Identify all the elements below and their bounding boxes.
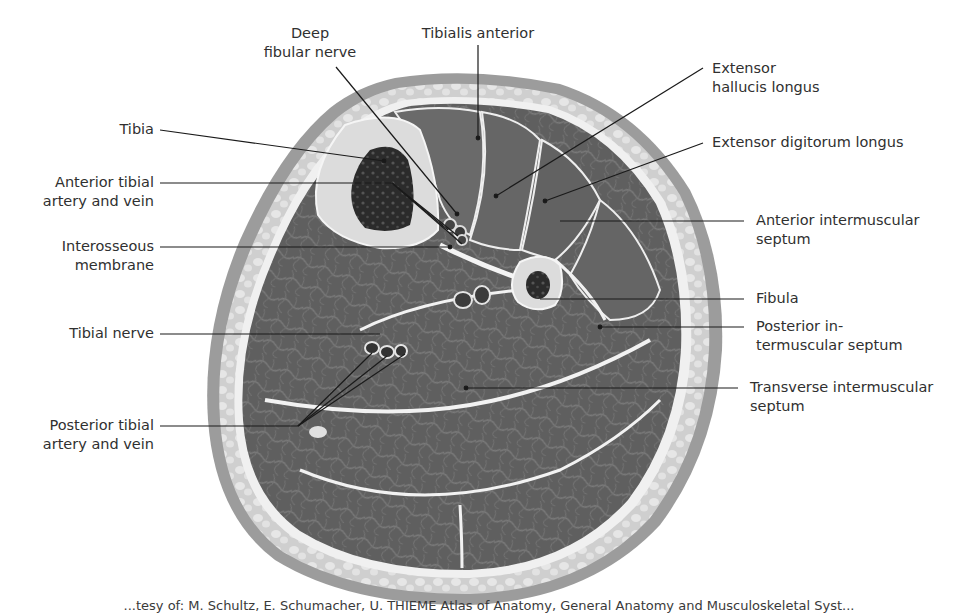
cross-section-illustration: [0, 0, 978, 615]
label-tibia: Tibia: [60, 120, 154, 139]
label-extensor-digitorum-longus: Extensor digitorum longus: [712, 133, 903, 152]
label-deep-fibular-nerve: Deep fibular nerve: [250, 24, 370, 62]
fibula-marrow: [526, 271, 550, 299]
posterior-tibial-vessel-3: [395, 345, 407, 357]
label-posterior-intermuscular-septum: Posterior in- termuscular septum: [756, 317, 903, 355]
label-fibula: Fibula: [756, 289, 799, 308]
label-anterior-tibial-artery-vein: Anterior tibial artery and vein: [14, 173, 154, 211]
label-anterior-intermuscular-septum: Anterior intermuscular septum: [756, 211, 920, 249]
small-saphenous-structure: [309, 426, 327, 438]
figure-caption: ...tesy of: M. Schultz, E. Schumacher, U…: [0, 598, 978, 615]
label-extensor-hallucis-longus: Extensor hallucis longus: [712, 59, 820, 97]
label-tibialis-anterior: Tibialis anterior: [408, 24, 548, 43]
leg-cross-section-figure: Tibia Anterior tibial artery and vein In…: [0, 0, 978, 615]
label-transverse-intermuscular-septum: Transverse intermuscular septum: [750, 378, 933, 416]
label-interosseous-membrane: Interosseous membrane: [14, 237, 154, 275]
fibular-vessel-1: [454, 292, 472, 308]
fibular-vessel-2: [474, 286, 490, 304]
label-posterior-tibial-artery-vein: Posterior tibial artery and vein: [14, 416, 154, 454]
label-tibial-nerve: Tibial nerve: [14, 324, 154, 343]
posterior-tibial-vessel-1: [365, 342, 379, 354]
